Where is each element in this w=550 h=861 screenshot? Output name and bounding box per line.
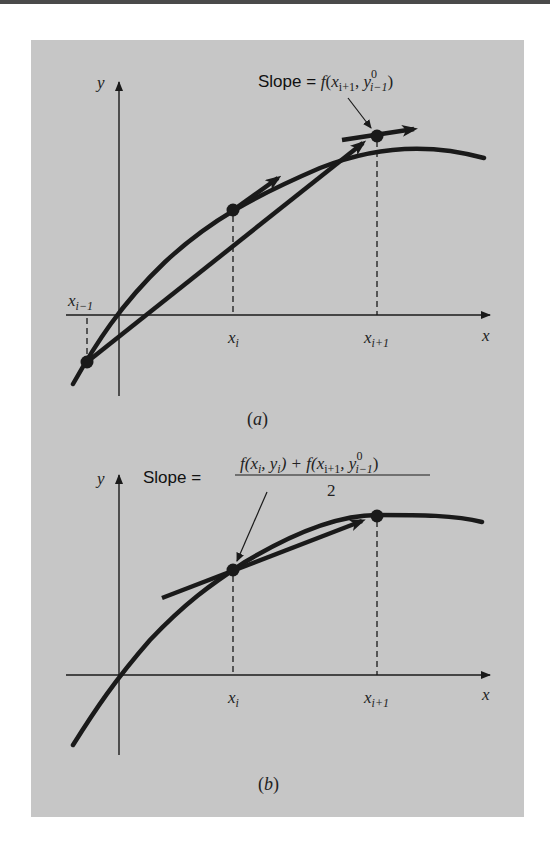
tick-x-prev-a: xi−1	[67, 291, 93, 313]
point-x-i-a	[227, 204, 240, 217]
average-slope-line-b	[162, 521, 362, 598]
slope-label-numerator-b: f(xi, yi) + f(xi+1, y0i−1)	[240, 449, 379, 476]
label-pointer-a	[348, 98, 371, 128]
slope-label-denominator-b: 2	[327, 481, 336, 500]
slope-label-a: Slope = f(xi+1, y0i−1)	[258, 67, 393, 94]
tick-x-i-b: xi	[227, 688, 239, 710]
slope-label-prefix-b: Slope =	[143, 468, 201, 487]
tick-x-next-b: xi+1	[363, 688, 389, 710]
point-x-i-b	[227, 564, 240, 577]
heun-method-figure: y x xi−1 xi xi+1 Slope = f(x	[0, 0, 550, 861]
tick-x-next-a: xi+1	[363, 328, 389, 350]
solution-curve-a	[73, 149, 484, 384]
point-x-prev-a	[81, 356, 94, 369]
x-axis-label-a: x	[481, 326, 490, 345]
y-axis-label-b: y	[95, 469, 105, 488]
predictor-line-a	[87, 143, 363, 362]
caption-a: (a)	[247, 409, 268, 430]
point-x-next-b	[371, 510, 384, 523]
point-x-next-a	[371, 130, 384, 143]
y-axis-label-a: y	[95, 73, 105, 92]
panel-b: y x xi xi+1 Slope = f(xi, yi) + f(xi+1, …	[66, 449, 490, 795]
panel-a: y x xi−1 xi xi+1 Slope = f(x	[66, 67, 490, 430]
tick-x-i-a: xi	[227, 328, 239, 350]
x-axis-label-b: x	[481, 685, 490, 704]
solution-curve-b	[73, 515, 482, 745]
caption-b: (b)	[258, 774, 279, 795]
tangent-arrow-xi-a	[236, 178, 278, 208]
